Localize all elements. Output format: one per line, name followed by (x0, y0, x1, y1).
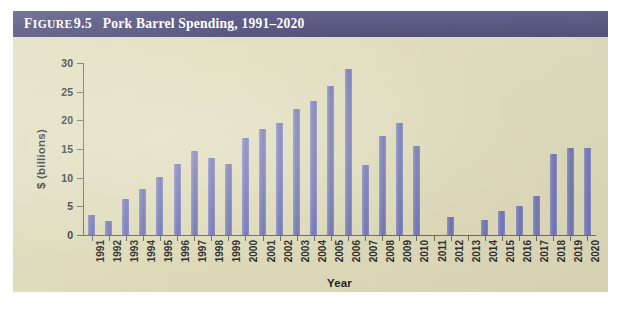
x-axis-tick (348, 236, 349, 241)
bar (396, 123, 403, 235)
figure-panel: FIGURE9.5Pork Barrel Spending, 1991–2020… (13, 11, 608, 292)
x-axis-tick (331, 236, 332, 241)
x-axis-tick (228, 236, 229, 241)
x-axis-tick (280, 236, 281, 241)
bar (276, 123, 283, 235)
x-axis-tick (92, 236, 93, 241)
bar (122, 199, 129, 235)
x-axis-tick-label: 2019 (574, 240, 584, 262)
bar (362, 165, 369, 235)
figure-number: 9.5 (74, 16, 92, 31)
x-axis-tick-label: 2020 (591, 240, 601, 262)
y-axis-tick-label: 20 (47, 115, 73, 125)
bar (225, 164, 232, 235)
x-axis-tick-label: 2004 (318, 240, 328, 262)
x-axis-tick (587, 236, 588, 241)
x-axis-tick-label: 2009 (403, 240, 413, 262)
x-axis-tick-label: 1999 (232, 240, 242, 262)
x-axis-tick-label: 2013 (472, 240, 482, 262)
y-axis-tick-label: 15 (47, 144, 73, 154)
x-axis-tick-label: 1996 (181, 240, 191, 262)
y-axis-tick (77, 120, 83, 121)
y-axis-tick (77, 149, 83, 150)
bar (105, 221, 112, 235)
y-axis-tick (77, 235, 83, 236)
y-axis-line (83, 63, 84, 236)
x-axis-tick (451, 236, 452, 241)
x-axis-title: Year (83, 277, 596, 289)
x-axis-tick-label: 2007 (369, 240, 379, 262)
x-axis-tick-label: 1995 (164, 240, 174, 262)
bar (88, 215, 95, 235)
x-axis-tick-label: 1997 (198, 240, 208, 262)
x-axis-tick (314, 236, 315, 241)
bar (242, 138, 249, 235)
y-axis-tick (77, 206, 83, 207)
x-axis-tick (536, 236, 537, 241)
y-axis-tick-label: 30 (47, 58, 73, 68)
x-axis-tick-label: 1991 (96, 240, 106, 262)
x-axis-tick (143, 236, 144, 241)
figure-root: FIGURE9.5Pork Barrel Spending, 1991–2020… (0, 0, 622, 310)
x-axis-tick-label: 1992 (113, 240, 123, 262)
x-axis-tick-label: 2012 (455, 240, 465, 262)
x-axis-tick-label: 2000 (249, 240, 259, 262)
y-axis-tick-label: 10 (47, 173, 73, 183)
x-axis-tick (399, 236, 400, 241)
x-axis-tick-label: 2014 (489, 240, 499, 262)
y-axis-tick-label: 25 (47, 87, 73, 97)
bar (481, 220, 488, 235)
x-axis-tick-label: 2010 (420, 240, 430, 262)
x-axis-tick (109, 236, 110, 241)
x-axis-tick (297, 236, 298, 241)
x-axis-tick-label: 2005 (335, 240, 345, 262)
x-axis-tick (211, 236, 212, 241)
x-axis-tick (519, 236, 520, 241)
x-axis-tick (245, 236, 246, 241)
x-axis-tick (365, 236, 366, 241)
x-axis-tick-label: 2018 (557, 240, 567, 262)
x-axis-tick-label: 1994 (147, 240, 157, 262)
x-axis-tick-label: 1993 (130, 240, 140, 262)
figure-title-bar: FIGURE9.5Pork Barrel Spending, 1991–2020 (13, 11, 608, 37)
x-axis-tick-label: 2011 (438, 240, 448, 262)
y-axis-tick-labels: 051015202530 (43, 11, 73, 292)
y-axis-tick (77, 63, 83, 64)
x-axis-tick-label: 2015 (506, 240, 516, 262)
bar (498, 211, 505, 235)
bar (293, 109, 300, 235)
bar (156, 177, 163, 235)
bar (413, 146, 420, 235)
y-axis-tick (77, 92, 83, 93)
x-axis-tick (177, 236, 178, 241)
x-axis-tick (570, 236, 571, 241)
bar (310, 101, 317, 235)
bar (379, 136, 386, 235)
y-axis-tick-label: 5 (47, 201, 73, 211)
x-axis-tick (194, 236, 195, 241)
y-axis-tick-label: 0 (47, 230, 73, 240)
x-axis-tick (382, 236, 383, 241)
x-axis-tick-label: 2016 (523, 240, 533, 262)
x-axis-tick-label: 2006 (352, 240, 362, 262)
bar (174, 164, 181, 235)
bar (208, 158, 215, 235)
bar (139, 189, 146, 235)
x-axis-tick-label: 2003 (301, 240, 311, 262)
bar (327, 86, 334, 235)
bar (584, 148, 591, 235)
x-axis-tick (416, 236, 417, 241)
bar (345, 69, 352, 235)
x-axis-tick (502, 236, 503, 241)
bar (259, 129, 266, 235)
figure-name: Pork Barrel Spending, 1991–2020 (103, 16, 305, 31)
x-axis-tick (160, 236, 161, 241)
x-axis-tick (126, 236, 127, 241)
bar (516, 206, 523, 235)
x-axis-tick (263, 236, 264, 241)
x-axis-tick-label: 2002 (284, 240, 294, 262)
bar (550, 154, 557, 235)
x-axis-tick (434, 236, 435, 241)
x-axis-tick (468, 236, 469, 241)
x-axis-tick-label: 1998 (215, 240, 225, 262)
